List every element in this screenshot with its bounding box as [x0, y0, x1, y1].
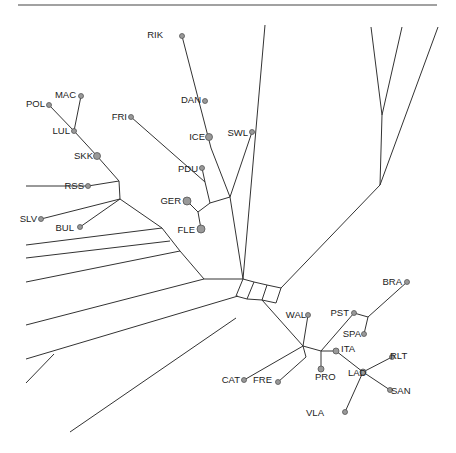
taxon-node-bul	[78, 225, 83, 230]
phylogenetic-network: RIKMACPOLDANFRILULICESWLSKKPDURSSGERSLVB…	[0, 0, 456, 453]
network-edge	[74, 96, 81, 131]
network-edge	[247, 299, 262, 300]
network-edge	[26, 296, 238, 359]
taxon-label-slv: SLV	[20, 213, 38, 224]
network-edge	[303, 346, 306, 357]
taxon-label-fle: FLE	[178, 224, 195, 235]
taxon-label-ger: GER	[160, 195, 181, 206]
network-edge	[198, 203, 210, 212]
taxon-label-ita: ITA	[341, 343, 356, 354]
taxon-node-fri	[129, 115, 134, 120]
network-edge	[26, 228, 162, 245]
taxon-label-rlt: RLT	[390, 350, 407, 361]
network-edge	[243, 25, 265, 279]
taxon-node-rss	[86, 184, 91, 189]
taxon-label-pol: POL	[26, 98, 45, 109]
network-edge	[368, 282, 407, 317]
taxon-label-lul: LUL	[53, 125, 70, 136]
taxon-label-cat: CAT	[222, 374, 240, 385]
taxon-label-vla: VLA	[306, 407, 325, 418]
network-edge	[345, 372, 363, 412]
taxon-node-cat	[242, 378, 247, 383]
network-edge	[247, 282, 254, 299]
taxon-nodes	[39, 34, 410, 415]
taxon-label-rss: RSS	[64, 180, 84, 191]
network-edge	[281, 185, 380, 288]
taxon-label-fre: FRE	[253, 374, 272, 385]
network-edge	[262, 300, 303, 346]
network-edge	[120, 199, 162, 228]
taxon-node-spa	[362, 332, 367, 337]
network-edge	[205, 182, 210, 203]
taxon-node-slv	[39, 217, 44, 222]
taxon-node-dan	[203, 99, 208, 104]
network-edge	[26, 354, 54, 383]
network-edge	[278, 357, 306, 382]
taxon-node-rik	[180, 34, 185, 39]
taxon-node-ita	[333, 348, 339, 354]
taxon-node-fle	[197, 225, 205, 233]
network-edge	[236, 296, 247, 299]
taxon-label-dan: DAN	[181, 94, 201, 105]
taxon-label-mac: MAC	[55, 89, 76, 100]
network-edge	[371, 27, 382, 115]
network-edge	[80, 199, 120, 227]
taxon-label-bul: BUL	[56, 222, 74, 233]
network-edge	[236, 279, 243, 296]
taxon-labels: RIKMACPOLDANFRILULICESWLSKKPDURSSGERSLVB…	[20, 29, 411, 418]
taxon-label-pdu: PDU	[178, 163, 198, 174]
taxon-node-wal	[306, 313, 311, 318]
network-edge	[88, 181, 119, 186]
network-edge	[211, 148, 230, 197]
network-edge	[97, 156, 119, 181]
taxon-label-ice: ICE	[189, 131, 205, 142]
network-edge	[303, 346, 321, 351]
taxon-label-swl: SWL	[227, 127, 248, 138]
network-edge	[276, 288, 281, 303]
taxon-node-swl	[250, 130, 255, 135]
taxon-node-vla	[343, 410, 348, 415]
taxon-label-pro: PRO	[315, 371, 336, 382]
taxon-node-pst	[352, 311, 357, 316]
taxon-label-spa: SPA	[343, 328, 362, 339]
network-edge	[363, 357, 392, 372]
taxon-label-fri: FRI	[112, 111, 127, 122]
taxon-label-san: SAN	[391, 385, 411, 396]
taxon-label-rik: RIK	[147, 29, 164, 40]
network-edges	[26, 25, 438, 432]
network-edge	[380, 115, 382, 185]
network-edge	[230, 197, 243, 279]
taxon-label-wal: WAL	[286, 309, 306, 320]
network-edge	[243, 279, 254, 282]
network-edge	[262, 285, 267, 300]
taxon-node-ger	[183, 197, 191, 205]
network-edge	[230, 132, 252, 197]
taxon-node-fre	[276, 380, 281, 385]
taxon-node-bra	[405, 280, 410, 285]
taxon-node-skk	[94, 153, 101, 160]
taxon-label-skk: SKK	[74, 150, 94, 161]
network-edge	[254, 282, 267, 285]
network-edge	[70, 318, 236, 432]
network-edge	[267, 285, 281, 288]
taxon-node-lul	[72, 129, 77, 134]
network-edge	[180, 251, 204, 279]
taxon-node-pdu	[200, 166, 205, 171]
network-edge	[380, 27, 438, 185]
network-edge	[26, 241, 170, 258]
network-edge	[382, 27, 402, 115]
network-edge	[119, 181, 120, 199]
taxon-label-pst: PST	[331, 307, 350, 318]
network-edge	[26, 279, 204, 325]
taxon-node-ice	[206, 134, 213, 141]
network-edge	[41, 199, 120, 219]
network-edge	[363, 372, 390, 390]
taxon-label-bra: BRA	[382, 276, 402, 287]
taxon-label-lad: LAD	[348, 367, 367, 378]
network-edge	[210, 197, 230, 203]
taxon-node-pol	[47, 103, 52, 108]
taxon-node-mac	[79, 94, 84, 99]
